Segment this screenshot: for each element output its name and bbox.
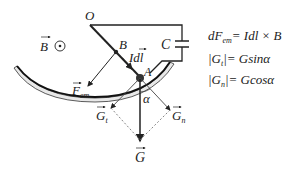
label-A-point: A [143, 65, 152, 79]
label-F-em: Fem [71, 83, 90, 100]
label-G-t: Gt [96, 108, 108, 125]
label-C: C [161, 37, 171, 52]
label-O: O [85, 8, 95, 23]
label-G-n: Gn [172, 108, 185, 125]
equations-block: dFem= Idl × B |Gt|= Gsinα |Gn|= Gcosα [208, 28, 282, 89]
physics-diagram: O B A C B Idl Fem Gt Gn G α dFem= Idl × … [0, 0, 289, 173]
magnetic-field-out-icon [55, 41, 65, 51]
label-field-B: B [40, 39, 48, 54]
equation-lorentz-force: dFem= Idl × B [208, 28, 282, 45]
force-em-arrow [88, 52, 116, 86]
label-alpha: α [143, 91, 151, 106]
label-G: G [135, 150, 145, 165]
label-Idl: Idl [128, 50, 144, 65]
label-B-point: B [119, 37, 127, 52]
diagram-canvas: O B A C B Idl Fem Gt Gn G α dFem= Idl × … [0, 0, 289, 173]
equation-normal: |Gn|= Gcosα [208, 72, 275, 89]
capacitor-icon [175, 41, 189, 47]
equation-tangential: |Gt|= Gsinα [208, 51, 271, 68]
